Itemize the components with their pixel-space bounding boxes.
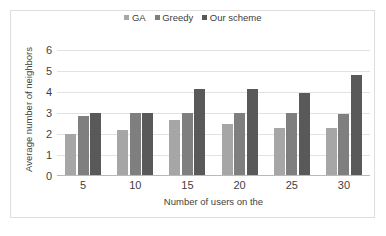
bars-layer: [57, 50, 370, 176]
legend-swatch-icon-our-scheme: [202, 15, 207, 20]
bar-greedy-25[interactable]: [286, 113, 297, 176]
plot-area: [57, 50, 370, 176]
x-axis-tick-labels: 51015202530: [57, 179, 370, 191]
bar-group-5: [57, 50, 109, 176]
y-axis-tick-label: 0: [26, 171, 52, 182]
bar-greedy-10[interactable]: [130, 113, 141, 176]
bar-our-scheme-25[interactable]: [299, 93, 310, 176]
x-axis-tick-label: 10: [109, 179, 161, 191]
x-axis-tick-label: 20: [214, 179, 266, 191]
chart-legend: GA Greedy Our scheme: [0, 12, 386, 23]
bar-group-20: [214, 50, 266, 176]
bar-our-scheme-20[interactable]: [247, 89, 258, 176]
legend-label-ga: GA: [132, 12, 146, 23]
bar-our-scheme-15[interactable]: [194, 89, 205, 176]
bar-ga-10[interactable]: [117, 130, 128, 176]
bar-greedy-15[interactable]: [182, 113, 193, 176]
bar-ga-25[interactable]: [274, 128, 285, 176]
bar-group-10: [109, 50, 161, 176]
y-axis-tick-labels: 0123456: [26, 50, 52, 176]
legend-item-ga[interactable]: GA: [124, 12, 145, 23]
y-axis-tick-label: 2: [26, 129, 52, 140]
x-axis-title: Number of users on the: [57, 196, 370, 207]
legend-swatch-icon-ga: [124, 15, 129, 20]
bar-greedy-5[interactable]: [78, 116, 89, 176]
bar-our-scheme-10[interactable]: [142, 113, 153, 176]
bar-ga-30[interactable]: [326, 128, 337, 176]
x-axis-tick-label: 30: [318, 179, 370, 191]
legend-label-our-scheme: Our scheme: [210, 12, 262, 23]
chart-canvas: GA Greedy Our scheme Average number of n…: [0, 0, 386, 236]
y-axis-tick-label: 5: [26, 66, 52, 77]
bar-ga-15[interactable]: [169, 120, 180, 176]
x-axis-tick-label: 5: [57, 179, 109, 191]
legend-item-greedy[interactable]: Greedy: [155, 12, 194, 23]
y-axis-tick-label: 6: [26, 45, 52, 56]
bar-our-scheme-30[interactable]: [351, 75, 362, 176]
x-axis-tick-label: 15: [161, 179, 213, 191]
bar-ga-5[interactable]: [65, 134, 76, 176]
y-axis-tick-label: 1: [26, 150, 52, 161]
bar-ga-20[interactable]: [222, 124, 233, 177]
x-axis-line: [57, 175, 370, 176]
bar-our-scheme-5[interactable]: [90, 113, 101, 176]
bar-greedy-30[interactable]: [338, 114, 349, 176]
x-axis-tick-label: 25: [266, 179, 318, 191]
legend-label-greedy: Greedy: [162, 12, 193, 23]
y-axis-tick-label: 4: [26, 87, 52, 98]
bar-greedy-20[interactable]: [234, 113, 245, 176]
bar-group-25: [266, 50, 318, 176]
legend-swatch-icon-greedy: [155, 15, 160, 20]
bar-group-15: [161, 50, 213, 176]
y-axis-tick-label: 3: [26, 108, 52, 119]
bar-group-30: [318, 50, 370, 176]
legend-item-our-scheme[interactable]: Our scheme: [202, 12, 261, 23]
